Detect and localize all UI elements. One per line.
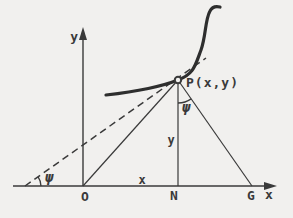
origin-label: O	[81, 189, 89, 204]
y-axis-arrowhead-icon	[79, 27, 87, 40]
line-O-to-P	[83, 80, 178, 186]
ordinate-label: y	[167, 133, 174, 147]
abscissa-label: x	[138, 173, 145, 187]
normal-line-P-to-G	[178, 80, 252, 186]
diagram-canvas: y x O x N G y P(x,y) ψ ψ	[0, 0, 293, 218]
point-G-label: G	[247, 188, 255, 203]
y-axis-label: y	[70, 29, 78, 44]
psi-angle-label-tangent: ψ	[45, 169, 54, 185]
x-axis-label: x	[265, 187, 273, 202]
angle-arc-tangent	[38, 177, 41, 186]
point-P-marker	[175, 77, 181, 83]
curve-tangent-normal-diagram: y x O x N G y P(x,y) ψ ψ	[0, 0, 293, 218]
point-P-label: P(x,y)	[186, 75, 239, 90]
psi-angle-label-at-P: ψ	[182, 99, 191, 115]
foot-N-label: N	[170, 188, 178, 203]
